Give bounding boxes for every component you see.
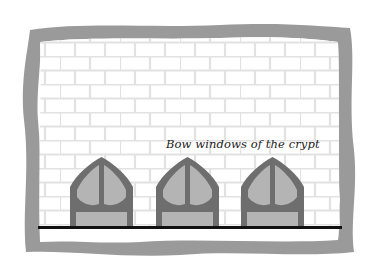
- ground-line: [38, 226, 342, 229]
- crypt-scene: [0, 0, 375, 271]
- caption-text: Bow windows of the crypt: [166, 137, 320, 151]
